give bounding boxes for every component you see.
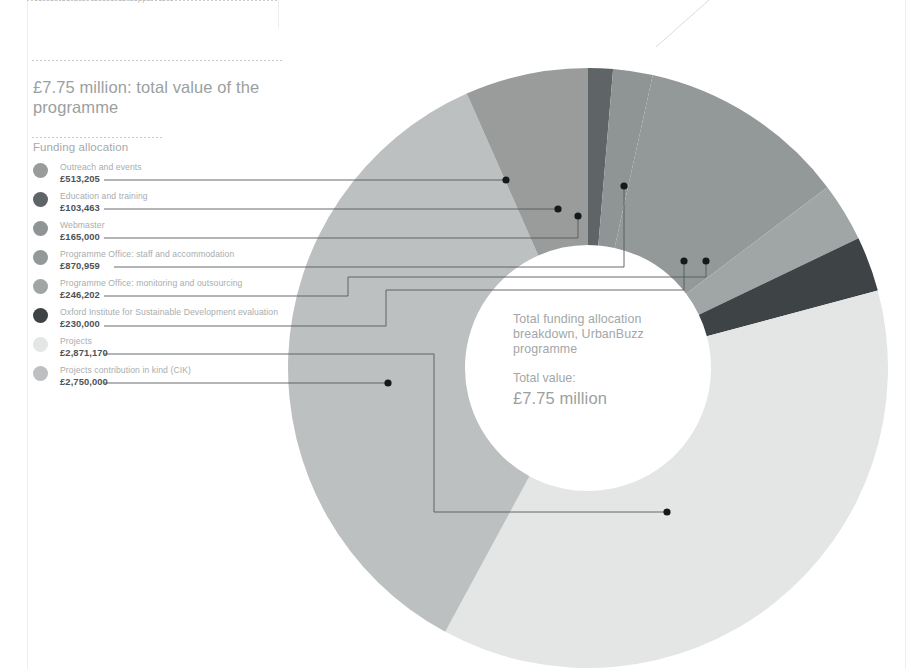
legend-title: Funding allocation <box>33 141 128 153</box>
leader-dot-education <box>554 205 561 212</box>
legend-swatch-icon <box>33 250 48 265</box>
legend-item-value: £230,000 <box>60 318 278 330</box>
legend-rule <box>32 137 162 138</box>
leader-dot-outreach <box>502 176 509 183</box>
legend-item-value: £2,871,170 <box>60 347 108 359</box>
legend-swatch-icon <box>33 192 48 207</box>
center-total-label: Total value: <box>513 371 688 386</box>
left-column: £7.75 million: total value of the progra… <box>27 0 289 669</box>
legend-item-label: Outreach and events <box>60 162 142 173</box>
legend-item-label: Projects contribution in kind (CIK) <box>60 365 191 376</box>
page-headline: £7.75 million: total value of the progra… <box>33 77 273 117</box>
legend-item-value: £870,959 <box>60 260 234 272</box>
leader-dot-po-staff <box>620 182 627 189</box>
legend-swatch-icon <box>33 366 48 381</box>
legend-item-label: Programme Office: staff and accommodatio… <box>60 249 234 260</box>
legend-item-label: Projects <box>60 336 108 347</box>
leader-dot-webmaster <box>574 212 581 219</box>
legend-swatch-icon <box>33 308 48 323</box>
leader-dot-cik <box>384 379 391 386</box>
legend-item-value: £103,463 <box>60 202 148 214</box>
legend-swatch-icon <box>33 279 48 294</box>
legend-item-label: Oxford Institute for Sustainable Develop… <box>60 307 278 318</box>
leader-dot-projects <box>663 508 670 515</box>
leader-dot-oxford <box>680 257 687 264</box>
center-title: Total funding allocation breakdown, Urba… <box>513 312 688 358</box>
legend-item-label: Programme Office: monitoring and outsour… <box>60 278 242 289</box>
donut-center-label: Total funding allocation breakdown, Urba… <box>513 312 688 408</box>
legend-item-label: Education and training <box>60 191 148 202</box>
headline-rule <box>32 60 282 61</box>
legend-item-value: £246,202 <box>60 289 242 301</box>
legend-swatch-icon <box>33 163 48 178</box>
legend-swatch-icon <box>33 337 48 352</box>
legend-item-label: Webmaster <box>60 220 105 231</box>
legend-swatch-icon <box>33 221 48 236</box>
leader-dot-po-monitoring <box>702 257 709 264</box>
legend-item-value: £165,000 <box>60 231 105 243</box>
center-total-value: £7.75 million <box>513 388 688 408</box>
legend-item-value: £513,205 <box>60 173 142 185</box>
legend-item-value: £2,750,000 <box>60 376 191 388</box>
